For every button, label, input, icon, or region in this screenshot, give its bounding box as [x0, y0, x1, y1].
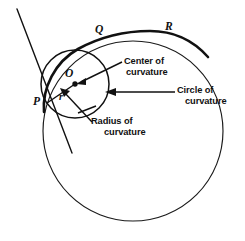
callout-radius-of-curvature: Radius of curvature	[91, 116, 145, 138]
callout-radius-line1: Radius of	[91, 116, 145, 127]
point-label-O: O	[65, 68, 73, 80]
point-label-P: P	[33, 96, 40, 108]
callout-circle-line2: curvature	[185, 96, 226, 107]
tangent-line-at-P	[17, 9, 72, 153]
callout-center-line1: Center of	[124, 56, 167, 67]
point-label-R: R	[165, 21, 173, 33]
callout-circle-line1: Circle of	[177, 85, 226, 96]
callout-circle-of-curvature: Circle of curvature	[177, 85, 226, 107]
point-label-Q: Q	[95, 24, 103, 36]
callout-center-line2: curvature	[126, 67, 167, 78]
curvature-diagram: P Q R O r Center of curvature Circle of …	[0, 0, 245, 241]
leader-center	[81, 62, 122, 82]
point-label-r: r	[59, 92, 63, 102]
callout-center-of-curvature: Center of curvature	[124, 56, 167, 78]
callout-radius-line2: curvature	[104, 127, 145, 138]
arrow-left-icon-center	[76, 78, 86, 85]
